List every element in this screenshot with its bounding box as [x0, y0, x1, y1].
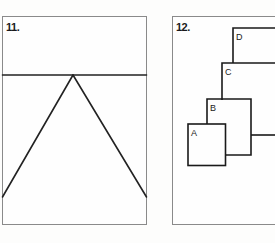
panel-number-11: 11.	[6, 21, 19, 33]
puzzle-page: 11. 12. A B C D	[0, 0, 275, 243]
puzzle-panel-11: 11.	[2, 16, 147, 225]
panel-number-12: 12.	[176, 21, 190, 33]
puzzle-panel-12: 12.	[172, 16, 275, 225]
